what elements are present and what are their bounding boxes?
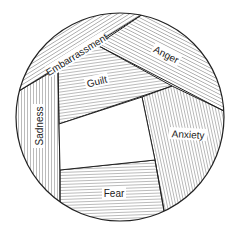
label-anxiety: Anxiety	[169, 127, 208, 141]
label-sadness: Sadness	[33, 104, 45, 148]
region-sadness	[0, 68, 60, 249]
svg-text:Fear: Fear	[104, 188, 125, 199]
svg-text:Sadness: Sadness	[34, 107, 45, 146]
label-fear: Fear	[102, 187, 126, 199]
region-fear	[60, 160, 168, 249]
svg-text:Anxiety: Anxiety	[171, 128, 204, 141]
emotion-circle-diagram: Embarrassment Anger Guilt Sadness Anxiet…	[0, 0, 238, 249]
